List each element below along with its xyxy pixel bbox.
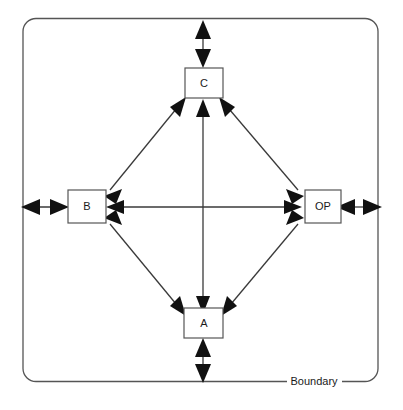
link-b-c-arrowhead-b bbox=[104, 189, 122, 204]
external-link-op-right-arrowhead-out bbox=[363, 199, 382, 215]
external-link-b-left-arrowhead-out bbox=[21, 199, 40, 215]
link-b-c bbox=[104, 97, 186, 204]
link-b-op bbox=[106, 200, 302, 214]
relationship-diagram: C B OP A Boundary bbox=[0, 0, 403, 410]
link-c-op-line bbox=[224, 103, 298, 190]
external-link-a-down-arrowhead-out bbox=[195, 364, 211, 383]
node-c[interactable]: C bbox=[185, 68, 223, 98]
external-link-c-up-arrowhead-out bbox=[195, 20, 211, 39]
link-op-a bbox=[221, 210, 304, 316]
external-link-b-left bbox=[21, 199, 69, 215]
external-link-a-down bbox=[195, 338, 211, 383]
external-link-b-left-arrowhead-in bbox=[50, 199, 69, 215]
external-link-c-up-arrowhead-in bbox=[195, 49, 211, 68]
link-op-a-arrowhead-op bbox=[286, 210, 304, 225]
external-link-c-up bbox=[195, 20, 211, 68]
boundary-label: Boundary bbox=[290, 375, 338, 387]
node-a[interactable]: A bbox=[184, 308, 223, 338]
node-b-label: B bbox=[83, 200, 90, 212]
link-c-op bbox=[219, 97, 304, 204]
internal-links bbox=[104, 97, 304, 316]
link-c-a-arrowhead-c bbox=[196, 99, 210, 117]
node-op-label: OP bbox=[315, 200, 331, 212]
link-c-op-arrowhead-op bbox=[286, 189, 304, 204]
diagram-canvas: C B OP A Boundary bbox=[0, 0, 403, 410]
node-c-label: C bbox=[200, 77, 208, 89]
link-a-b bbox=[104, 210, 186, 316]
link-b-c-line bbox=[110, 103, 181, 190]
external-link-op-right bbox=[336, 199, 382, 215]
link-op-a-line bbox=[226, 224, 298, 310]
link-a-b-arrowhead-b bbox=[104, 210, 122, 225]
node-b[interactable]: B bbox=[68, 190, 106, 223]
node-op[interactable]: OP bbox=[305, 190, 341, 223]
node-a-label: A bbox=[200, 317, 208, 329]
link-a-b-line bbox=[110, 224, 181, 310]
external-link-a-down-arrowhead-in bbox=[195, 338, 211, 357]
